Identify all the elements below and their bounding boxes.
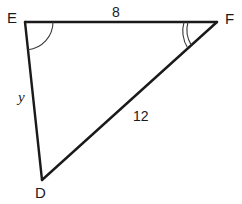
side-length-ef: 8 bbox=[112, 5, 120, 19]
vertex-label-f: F bbox=[225, 11, 234, 26]
vertex-label-d: D bbox=[35, 185, 46, 200]
side-df-line bbox=[42, 22, 217, 180]
side-length-df: 12 bbox=[133, 109, 149, 123]
angle-arc-f-inner bbox=[187, 22, 191, 45]
angle-arc-e bbox=[28, 22, 53, 50]
side-length-ed-variable: y bbox=[18, 90, 25, 105]
vertex-label-e: E bbox=[7, 10, 17, 25]
triangle-figure bbox=[0, 0, 242, 204]
diagram-canvas: E F D 8 12 y bbox=[0, 0, 242, 204]
